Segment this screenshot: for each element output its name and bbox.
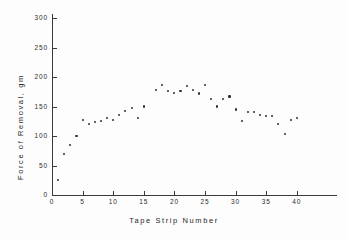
x-axis-tick-label: 0 [40,198,64,205]
y-axis-tick [53,77,57,78]
data-point [143,105,145,107]
data-point [228,95,230,97]
data-point [100,120,102,122]
chart-figure: 050100150200250300 0510152025303540 Tape… [0,0,348,240]
scatter-plot-area: 050100150200250300 0510152025303540 Tape… [0,0,348,240]
y-axis-tick-label: 250 [20,44,48,51]
data-point [179,90,181,92]
x-axis-tick-label: 25 [193,198,217,205]
data-point [235,108,237,110]
x-axis-tick [297,191,298,195]
x-axis-tick-label: 20 [162,198,186,205]
data-point [296,117,298,119]
x-axis-tick [266,191,267,195]
data-point [247,111,249,113]
data-point [112,119,114,121]
data-point [204,84,206,86]
y-axis-tick-label: 300 [20,14,48,21]
data-point [124,110,126,112]
x-axis-tick-label: 5 [71,198,95,205]
x-axis-tick [83,191,84,195]
data-point [137,117,139,119]
data-point [284,133,286,135]
data-point [253,111,255,113]
x-axis-tick [144,191,145,195]
data-point [106,117,108,119]
x-axis-tick-label: 40 [285,198,309,205]
data-point [277,123,279,125]
data-point [210,98,212,100]
x-axis-tick-label: 15 [132,198,156,205]
y-axis-tick [53,166,57,167]
y-axis-tick [53,48,57,49]
data-point [222,98,224,100]
data-point [69,144,71,146]
data-point [198,92,200,94]
y-axis-tick [53,136,57,137]
data-point [271,115,273,117]
data-point [82,119,84,121]
data-point [75,135,77,137]
x-axis-line [52,195,337,196]
x-axis-tick [113,191,114,195]
data-point [192,89,194,91]
data-point [216,105,218,107]
data-point [167,90,169,92]
x-axis-title: Tape Strip Number [0,216,348,225]
x-axis-tick [174,191,175,195]
data-point [265,115,267,117]
data-point [241,120,243,122]
y-axis-tick [53,18,57,19]
data-point [290,119,292,121]
y-axis-tick-label: 0 [20,191,48,198]
data-point [259,114,261,116]
data-point [131,107,133,109]
y-axis-tick [53,107,57,108]
data-point [63,153,65,155]
data-point [186,85,188,87]
data-point [161,84,163,86]
data-point [118,114,120,116]
data-point [94,121,96,123]
x-axis-tick-label: 35 [254,198,278,205]
y-axis-title: Force of Removal, gm [16,74,25,180]
x-axis-tick-label: 10 [101,198,125,205]
y-axis-line [52,14,53,196]
data-point [173,92,175,94]
x-axis-tick [205,191,206,195]
data-point [88,123,90,125]
data-point [155,89,157,91]
data-point [57,179,59,181]
x-axis-tick-label: 30 [224,198,248,205]
x-axis-tick [236,191,237,195]
